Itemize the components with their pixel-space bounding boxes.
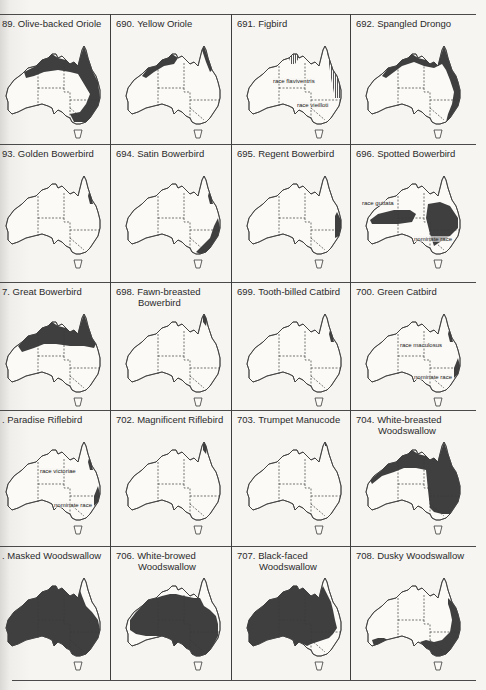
species-title: 690. Yellow Oriole (116, 18, 192, 29)
species-name: Olive-backed Oriole (15, 18, 101, 29)
species-number: 89. (2, 18, 15, 29)
species-number: 690. (116, 18, 135, 29)
species-title: 691. Figbird (237, 18, 287, 29)
species-name: Dusky Woodswallow (375, 550, 465, 561)
species-name: Yellow Oriole (135, 18, 193, 29)
species-number: 691. (237, 18, 256, 29)
australia-distribution-map (354, 174, 466, 274)
species-map-cell: 93. Golden Bowerbird (0, 144, 110, 282)
species-name: Regent Bowerbird (256, 148, 335, 159)
species-number: 703. (237, 414, 256, 425)
species-map-cell: 7. Great Bowerbird (0, 282, 110, 410)
species-title: 704. White-breastedWoodswallow (356, 414, 442, 436)
species-map-cell: 708. Dusky Woodswallow (350, 546, 476, 680)
species-title: 93. Golden Bowerbird (2, 148, 94, 159)
species-map-cell: 704. White-breastedWoodswallow (350, 410, 476, 546)
species-number: 695. (237, 148, 256, 159)
species-number: 694. (116, 148, 135, 159)
species-number: 708. (356, 550, 375, 561)
species-title: 89. Olive-backed Oriole (2, 18, 101, 29)
species-number: 699. (237, 286, 256, 297)
species-map-cell: 695. Regent Bowerbird (231, 144, 350, 282)
australia-distribution-map (354, 44, 466, 144)
species-map-cell: . Masked Woodswallow (0, 546, 110, 680)
species-map-cell: 707. Black-facedWoodswallow (231, 546, 350, 680)
species-title: 7. Great Bowerbird (2, 286, 82, 297)
species-name: Tooth-billed Catbird (256, 286, 341, 297)
species-title: . Paradise Riflebird (2, 414, 82, 425)
australia-distribution-map (0, 312, 106, 412)
species-title: 695. Regent Bowerbird (237, 148, 334, 159)
race-label: race maculosus (400, 342, 442, 348)
species-map-cell: 702. Magnificent Riflebird (110, 410, 231, 546)
species-name: Masked Woodswallow (5, 550, 101, 561)
species-map-cell: 703. Trumpet Manucode (231, 410, 350, 546)
race-label: nominate race (414, 374, 452, 380)
australia-distribution-map (235, 576, 347, 676)
australia-distribution-map (235, 174, 347, 274)
australia-distribution-map (114, 174, 226, 274)
species-map-cell: 694. Satin Bowerbird (110, 144, 231, 282)
species-name: Green Catbird (375, 286, 437, 297)
race-label: race flaviventris (273, 78, 315, 84)
species-title: 699. Tooth-billed Catbird (237, 286, 340, 297)
australia-distribution-map (0, 440, 106, 540)
australia-distribution-map (0, 44, 106, 144)
species-title: 700. Green Catbird (356, 286, 437, 297)
species-name: Paradise Riflebird (5, 414, 83, 425)
species-title: 707. Black-facedWoodswallow (237, 550, 317, 572)
species-number: 692. (356, 18, 375, 29)
species-title: . Masked Woodswallow (2, 550, 101, 561)
species-number: 7. (2, 286, 10, 297)
australia-distribution-map (0, 174, 106, 274)
species-name: Satin Bowerbird (135, 148, 205, 159)
species-map-cell: 692. Spangled Drongo (350, 14, 476, 144)
species-map-cell: 696. Spotted Bowerbirdrace guttatanomina… (350, 144, 476, 282)
species-number: 700. (356, 286, 375, 297)
species-name: Spotted Bowerbird (375, 148, 456, 159)
species-name: Golden Bowerbird (15, 148, 94, 159)
species-name: Great Bowerbird (10, 286, 82, 297)
species-map-cell: . Paradise Riflebirdrace victoriaenomina… (0, 410, 110, 546)
species-map-cell: 691. Figbirdrace flaviventrisrace vieill… (231, 14, 350, 144)
species-title: 692. Spangled Drongo (356, 18, 451, 29)
species-title: 702. Magnificent Riflebird (116, 414, 223, 425)
australia-distribution-map (235, 440, 347, 540)
species-title: 706. White-browedWoodswallow (116, 550, 196, 572)
species-name-line2: Woodswallow (237, 561, 317, 572)
species-number: 707. (237, 550, 256, 561)
species-number: 698. (116, 286, 135, 297)
australia-distribution-map (114, 440, 226, 540)
species-number: 702. (116, 414, 135, 425)
species-title: 708. Dusky Woodswallow (356, 550, 464, 561)
species-name: Figbird (256, 18, 288, 29)
species-name: Magnificent Riflebird (135, 414, 224, 425)
australia-distribution-map (114, 312, 226, 412)
australia-distribution-map (114, 44, 226, 144)
species-map-cell: 89. Olive-backed Oriole (0, 14, 110, 144)
australia-distribution-map (235, 312, 347, 412)
australia-distribution-map (354, 576, 466, 676)
species-number: 704. (356, 414, 375, 425)
field-guide-page: 89. Olive-backed Oriole690. Yellow Oriol… (0, 0, 486, 690)
species-name-line2: Woodswallow (356, 425, 442, 436)
australia-distribution-map (354, 312, 466, 412)
species-title: 698. Fawn-breastedBowerbird (116, 286, 201, 308)
species-name: White-browed (135, 550, 196, 561)
race-label: race vieilloti (297, 102, 328, 108)
species-map-cell: 706. White-browedWoodswallow (110, 546, 231, 680)
species-number: 93. (2, 148, 15, 159)
species-map-cell: 690. Yellow Oriole (110, 14, 231, 144)
australia-distribution-map (354, 440, 466, 540)
species-title: 696. Spotted Bowerbird (356, 148, 455, 159)
race-label: nominate race (54, 502, 92, 508)
species-name: Spangled Drongo (375, 18, 452, 29)
species-name: Black-faced (256, 550, 308, 561)
species-map-cell: 699. Tooth-billed Catbird (231, 282, 350, 410)
race-label: race guttata (362, 200, 394, 206)
species-name-line2: Bowerbird (116, 297, 201, 308)
grid-line-bottom (12, 680, 476, 681)
species-number: 706. (116, 550, 135, 561)
species-name: White-breasted (375, 414, 442, 425)
species-name: Fawn-breasted (135, 286, 201, 297)
